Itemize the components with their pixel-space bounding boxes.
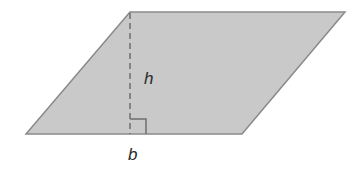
parallelogram-diagram: h b — [0, 0, 361, 178]
height-label: h — [144, 69, 153, 88]
base-label: b — [128, 145, 137, 164]
parallelogram-shape — [26, 12, 345, 134]
